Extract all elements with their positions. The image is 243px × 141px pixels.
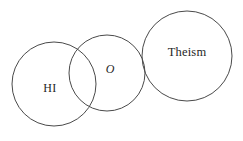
- venn-diagram: HI O Theism: [0, 0, 243, 141]
- venn-diagram-canvas: HI O Theism: [0, 0, 243, 141]
- circle-label-hi: HI: [43, 81, 56, 95]
- circle-label-theism: Theism: [168, 45, 207, 59]
- circle-label-o: O: [106, 62, 115, 76]
